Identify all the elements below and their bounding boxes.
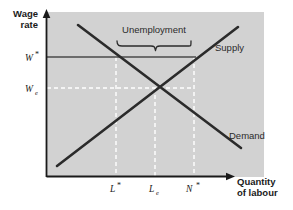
- x-tick-l-star-base: L: [109, 184, 115, 194]
- x-axis-title-line1: Quantity: [237, 176, 276, 187]
- x-tick-l-e-subscript: e: [156, 189, 159, 196]
- y-tick-w-e-base: W: [25, 84, 34, 94]
- y-axis-title-line1: Wage: [13, 8, 38, 19]
- x-tick-label-n-star: N *: [185, 181, 200, 194]
- x-axis-title-line2: of labour: [237, 187, 278, 198]
- x-tick-n-star-base: N: [185, 184, 193, 194]
- y-tick-w-star-superscript: *: [35, 50, 39, 59]
- supply-curve-label: Supply: [215, 42, 244, 53]
- x-tick-label-l-e: L e: [148, 184, 159, 196]
- y-tick-w-e-subscript: e: [35, 89, 38, 96]
- x-tick-label-l-star: L *: [109, 181, 121, 194]
- figure-container: Wage rate Quantity of labour W * W e L *…: [0, 0, 293, 210]
- labour-market-diagram: Wage rate Quantity of labour W * W e L *…: [0, 0, 293, 210]
- y-axis-title-line2: rate: [21, 19, 38, 30]
- x-tick-l-star-superscript: *: [117, 181, 121, 190]
- y-tick-w-star-base: W: [25, 53, 34, 63]
- demand-curve-label: Demand: [229, 130, 265, 141]
- y-tick-label-w-e: W e: [25, 84, 38, 96]
- unemployment-label: Unemployment: [122, 24, 186, 35]
- x-tick-n-star-superscript: *: [196, 181, 200, 190]
- x-tick-l-e-base: L: [148, 184, 154, 194]
- y-tick-label-w-star: W *: [25, 50, 39, 63]
